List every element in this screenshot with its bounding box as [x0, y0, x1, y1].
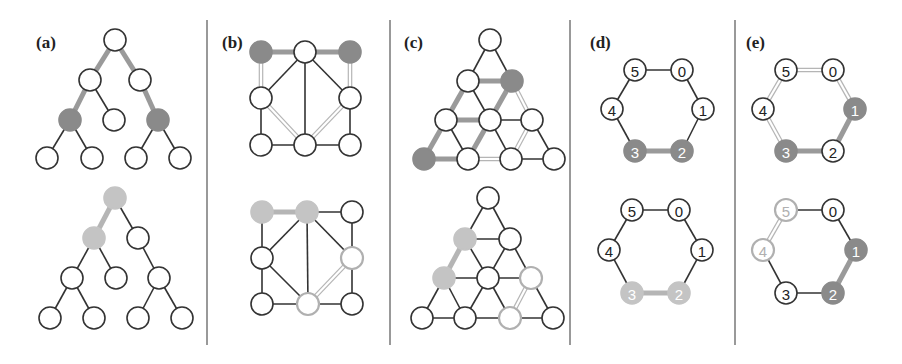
panel-e: (e)501234501234 — [746, 33, 867, 304]
graph-node — [127, 227, 149, 249]
subfigure-top — [36, 29, 191, 169]
graph-node — [129, 69, 151, 91]
node-label: 3 — [782, 286, 790, 303]
node-label: 0 — [675, 203, 683, 220]
graph-node — [454, 228, 476, 250]
graph-node — [457, 70, 479, 92]
node-label: 4 — [759, 102, 767, 119]
panel-label: (b) — [222, 33, 243, 52]
graph-node — [339, 41, 361, 63]
node-label: 0 — [829, 203, 837, 220]
graph-node — [477, 267, 499, 289]
graph-node — [433, 267, 455, 289]
graph-node — [104, 187, 126, 209]
nodes — [413, 29, 565, 170]
node-label: 2 — [675, 286, 683, 303]
node-label: 0 — [829, 63, 837, 80]
edges — [762, 209, 856, 293]
graph-node — [296, 201, 318, 223]
graph-edge — [307, 212, 308, 304]
edges — [762, 68, 857, 152]
graph-node — [83, 307, 105, 329]
edges — [612, 70, 703, 151]
subfigure-top: 501234 — [752, 59, 866, 162]
panel-label: (c) — [404, 33, 423, 52]
panel-label: (a) — [36, 33, 56, 52]
graph-node — [171, 307, 193, 329]
graph-node — [499, 228, 521, 250]
node-label: 4 — [608, 102, 616, 119]
node-label: 2 — [829, 286, 837, 303]
graph-figure: (a)(b)(c)(d)501234501234(e)501234501234 — [0, 0, 902, 364]
subfigure-top — [413, 29, 565, 170]
graph-node — [147, 109, 169, 131]
graph-node — [169, 147, 191, 169]
subfigure-bottom — [411, 187, 564, 329]
nodes — [39, 187, 193, 329]
node-label: 5 — [782, 203, 790, 220]
graph-node — [521, 109, 543, 131]
nodes — [411, 187, 564, 329]
node-label: 3 — [628, 286, 636, 303]
graph-node — [499, 307, 521, 329]
graph-node — [59, 109, 81, 131]
graph-node — [251, 293, 273, 315]
graph-node — [250, 134, 272, 156]
node-label: 4 — [759, 243, 767, 260]
graph-node — [297, 293, 319, 315]
node-label: 2 — [829, 144, 837, 161]
edges — [424, 40, 554, 161]
panel-dividers — [207, 20, 735, 345]
graph-node — [542, 307, 564, 329]
graph-node — [294, 134, 316, 156]
graph-node — [294, 41, 316, 63]
panel-c: (c) — [404, 29, 565, 329]
subfigure-top — [250, 41, 361, 156]
node-label: 1 — [699, 102, 707, 119]
graph-node — [103, 109, 125, 131]
edges — [259, 52, 351, 146]
panel-label: (e) — [746, 33, 765, 52]
node-label: 1 — [852, 243, 860, 260]
nodes: 501234 — [752, 199, 867, 304]
node-label: 3 — [631, 144, 639, 161]
edges — [262, 212, 353, 305]
panel-d: (d)501234501234 — [590, 33, 714, 304]
nodes: 501234 — [598, 199, 713, 304]
subfigure-bottom — [251, 201, 363, 315]
graph-node — [454, 307, 476, 329]
graph-node — [250, 41, 272, 63]
node-label: 0 — [678, 63, 686, 80]
graph-node — [251, 247, 273, 269]
graph-node — [148, 267, 170, 289]
nodes: 501234 — [601, 59, 714, 162]
graph-node — [520, 267, 542, 289]
panel-label: (d) — [590, 33, 611, 52]
graph-node — [250, 87, 272, 109]
subfigure-bottom — [39, 187, 193, 329]
edges — [50, 198, 182, 318]
graph-node — [83, 227, 105, 249]
node-label: 5 — [628, 203, 636, 220]
node-label: 1 — [851, 102, 859, 119]
graph-node — [339, 134, 361, 156]
graph-node — [105, 267, 127, 289]
panels: (a)(b)(c)(d)501234501234(e)501234501234 — [36, 29, 867, 329]
node-label: 2 — [678, 144, 686, 161]
subfigure-top: 501234 — [601, 59, 714, 162]
graph-node — [339, 87, 361, 109]
graph-node — [477, 187, 499, 209]
panel-b: (b) — [222, 33, 363, 315]
nodes — [36, 29, 191, 169]
graph-node — [341, 293, 363, 315]
node-label: 5 — [631, 63, 639, 80]
graph-node — [411, 307, 433, 329]
subfigure-bottom: 501234 — [752, 199, 867, 304]
panel-a: (a) — [36, 29, 193, 329]
node-label: 3 — [782, 144, 790, 161]
graph-node — [125, 147, 147, 169]
graph-node — [479, 29, 501, 51]
node-label: 1 — [698, 243, 706, 260]
node-label: 4 — [605, 243, 613, 260]
graph-node — [79, 69, 101, 91]
